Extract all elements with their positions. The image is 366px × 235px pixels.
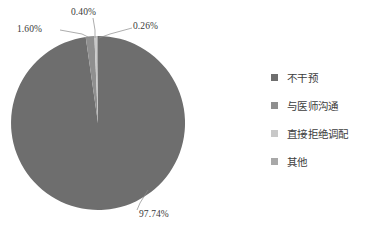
legend-item-yu-yi-shi-gou-tong[interactable]: 与医师沟通 xyxy=(271,96,366,116)
clipped-caption xyxy=(95,228,345,235)
leader-line-0-26 xyxy=(99,28,132,38)
data-label-1-60: 1.60% xyxy=(17,24,42,34)
data-label-0-26: 0.26% xyxy=(133,21,158,31)
chart-legend: 不干预 与医师沟通 直接拒绝调配 其他 xyxy=(271,68,366,180)
leader-line-0-40 xyxy=(93,18,95,38)
leader-line-1-60 xyxy=(60,30,90,38)
legend-item-label: 与医师沟通 xyxy=(287,98,339,113)
pie-slice-bu-gan-yu[interactable] xyxy=(11,36,185,210)
legend-item-qi-ta[interactable]: 其他 xyxy=(271,152,366,172)
legend-item-label: 不干预 xyxy=(287,70,318,85)
legend-item-zhi-jie-ju-jue-tiao-pei[interactable]: 直接拒绝调配 xyxy=(271,124,366,144)
legend-swatch-icon xyxy=(271,102,278,109)
pie-chart-figure: 1.60% 0.40% 0.26% 97.74% 不干预 与医师沟通 直接拒绝调… xyxy=(0,0,366,235)
data-label-0-40: 0.40% xyxy=(71,7,96,17)
legend-swatch-icon xyxy=(271,158,278,165)
data-label-97-74: 97.74% xyxy=(139,209,169,219)
legend-item-bu-gan-yu[interactable]: 不干预 xyxy=(271,68,366,88)
legend-item-label: 直接拒绝调配 xyxy=(287,126,349,141)
legend-swatch-icon xyxy=(271,74,278,81)
legend-item-label: 其他 xyxy=(287,154,308,169)
legend-swatch-icon xyxy=(271,130,278,137)
